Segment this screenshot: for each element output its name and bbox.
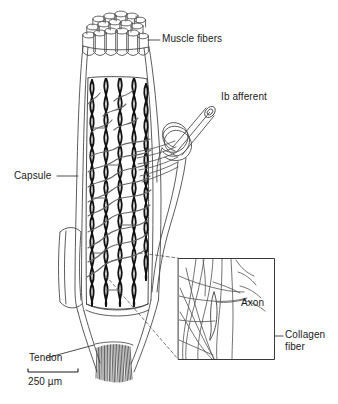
label-collagen-fiber-line2: fiber xyxy=(285,341,305,353)
label-muscle-fibers: Muscle fibers xyxy=(162,33,222,45)
label-axon: Axon xyxy=(241,297,264,309)
label-tendon: Tendon xyxy=(29,352,62,364)
label-collagen-fiber-line1: Collagen xyxy=(285,329,325,341)
scale-bar-label: 250 µm xyxy=(28,376,62,388)
label-capsule: Capsule xyxy=(14,170,51,182)
figure-canvas: Muscle fibers Ib afferent Capsule Tendon… xyxy=(0,0,338,404)
label-ib-afferent: Ib afferent xyxy=(221,91,267,103)
